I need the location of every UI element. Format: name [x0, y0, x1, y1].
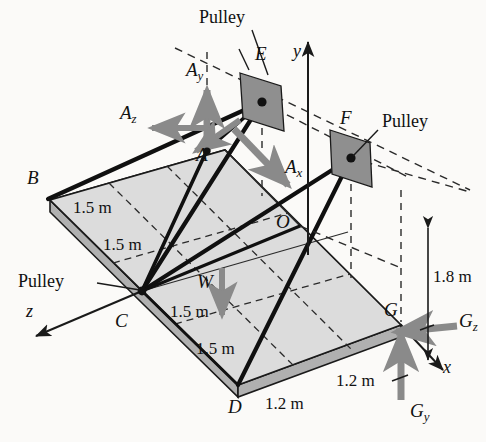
axis-label-y: y — [293, 42, 301, 60]
force-label-Gz-base: G — [459, 310, 473, 331]
force-label-Az-sub: z — [132, 111, 137, 126]
dimension-label-b2: 1.5 m — [103, 236, 142, 253]
point-label-E: E — [255, 44, 267, 63]
mechanics-figure: Pulley Pulley Pulley E F A B C D G O y x… — [0, 0, 486, 442]
force-label-Gy: Gy — [410, 401, 429, 424]
force-label-Ax: Ax — [285, 157, 302, 180]
axis-label-z: z — [26, 302, 33, 320]
pulley-hub-C — [138, 287, 147, 296]
force-label-Ay-base: A — [186, 59, 198, 80]
force-label-Ax-base: A — [285, 156, 297, 177]
dimension-label-height: 1.8 m — [433, 268, 472, 285]
force-label-W: W — [197, 272, 213, 291]
force-label-Ay-sub: y — [198, 68, 204, 83]
dimension-label-c2: 1.5 m — [196, 340, 235, 357]
figure-canvas — [0, 0, 486, 442]
force-label-Az-base: A — [120, 102, 132, 123]
dimension-label-bottom1: 1.2 m — [265, 395, 304, 412]
point-label-F: F — [340, 108, 352, 127]
point-label-A: A — [196, 145, 208, 164]
force-label-Ax-sub: x — [297, 165, 303, 180]
force-label-Ay: Ay — [186, 60, 203, 83]
force-label-Gy-sub: y — [424, 409, 430, 424]
force-label-Gy-base: G — [410, 400, 424, 421]
force-label-Gz-sub: z — [473, 319, 478, 334]
pulley-label-left: Pulley — [18, 272, 64, 290]
dimension-label-bottom2: 1.2 m — [336, 372, 375, 389]
point-label-D: D — [228, 397, 242, 416]
dimension-label-b1: 1.5 m — [73, 199, 112, 216]
point-label-O: O — [276, 212, 290, 231]
dimension-label-c1: 1.5 m — [170, 303, 209, 320]
point-label-G: G — [384, 300, 398, 319]
pulley-label-top: Pulley — [199, 8, 245, 26]
force-label-Gz: Gz — [459, 311, 478, 334]
plate-body — [50, 150, 401, 397]
point-label-C: C — [115, 311, 128, 330]
force-label-Az: Az — [120, 103, 137, 126]
pulley-label-right: Pulley — [382, 112, 428, 130]
pulley-hub-E — [257, 97, 266, 106]
point-label-B: B — [27, 168, 39, 187]
axis-label-x: x — [443, 358, 451, 376]
